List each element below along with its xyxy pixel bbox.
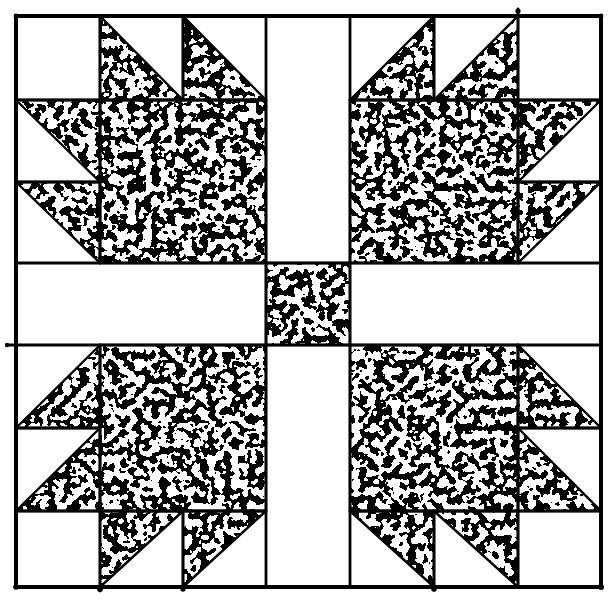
paw-pad-top-left — [100, 100, 266, 263]
paw-pad-bottom-left — [100, 345, 266, 511]
center-square — [266, 263, 350, 345]
ink-dot — [14, 14, 19, 19]
ink-dot — [5, 343, 9, 347]
ink-dot — [97, 586, 103, 592]
ink-dot — [13, 584, 19, 590]
quilt-block-illustration — [0, 0, 613, 602]
paw-pad-top-right — [350, 100, 518, 263]
ink-dot — [599, 14, 604, 19]
ink-dot — [598, 584, 604, 590]
ink-dot — [515, 8, 520, 13]
paw-pad-bottom-right — [350, 345, 518, 511]
ink-dot — [180, 586, 185, 591]
bear-paw-block-svg — [0, 0, 613, 602]
bear-paw-quilt-block — [0, 0, 613, 602]
ink-dot — [431, 586, 437, 592]
